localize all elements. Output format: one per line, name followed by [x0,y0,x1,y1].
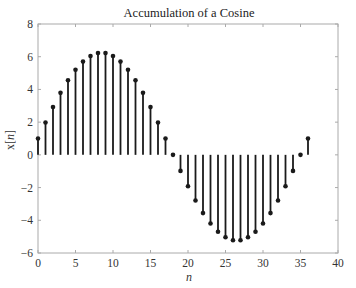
stem-point [193,155,198,203]
y-tick-label: −6 [21,247,33,259]
stem-point [73,68,78,155]
x-axis-label: n [186,270,192,284]
x-tick-label: 10 [107,257,119,269]
stem-point [163,136,168,155]
stem-series [36,51,311,243]
stem-point [111,54,116,155]
stem-point [246,155,251,240]
stem-point [291,155,296,173]
stem-point [133,78,138,155]
stem-point [283,155,288,189]
y-tick-label: −2 [21,182,33,194]
x-tick-label: 5 [73,257,79,269]
stem-point [103,51,108,155]
y-tick-label: 8 [27,18,33,30]
y-tick-label: 6 [27,51,33,63]
stem-point [88,54,93,155]
stem-point [36,136,41,155]
stem-point [201,155,206,216]
stem-point [96,51,101,155]
chart-title: Accumulation of a Cosine [124,6,255,20]
stem-point [178,155,183,173]
stem-point [276,155,281,203]
stem-point [306,136,311,155]
y-tick-label: 0 [27,149,33,161]
y-tick-label: −4 [21,214,33,226]
stem-point [66,78,71,155]
x-tick-label: 0 [35,257,41,269]
stem-point [156,120,161,155]
stem-point [231,155,236,243]
y-tick-label: 4 [27,83,33,95]
stem-point [51,105,56,155]
stem-point [216,155,221,234]
stem-point [298,153,303,158]
x-tick-label: 35 [295,257,307,269]
stem-point [223,155,228,240]
stem-point [268,155,273,216]
stem-point [58,91,63,155]
stem-point [171,153,176,158]
stem-point [208,155,213,226]
y-axis-label: x[n] [3,130,17,150]
stem-point [126,68,131,155]
x-tick-label: 30 [257,257,269,269]
stem-point [238,155,243,243]
stem-point [118,59,123,155]
stem-point [186,155,191,189]
x-tick-label: 20 [182,257,194,269]
stem-point [141,91,146,155]
y-tick-label: 2 [27,116,33,128]
stem-chart: Accumulation of a Cosine 051015202530354… [0,0,356,288]
stem-point [148,105,153,155]
x-tick-label: 40 [332,257,344,269]
stem-point [81,59,86,155]
stem-point [253,155,258,234]
axes: 0510152025303540−6−4−202468 [21,18,344,269]
stem-point [261,155,266,226]
x-tick-label: 25 [220,257,232,269]
x-tick-label: 15 [145,257,157,269]
stem-point [43,120,48,155]
